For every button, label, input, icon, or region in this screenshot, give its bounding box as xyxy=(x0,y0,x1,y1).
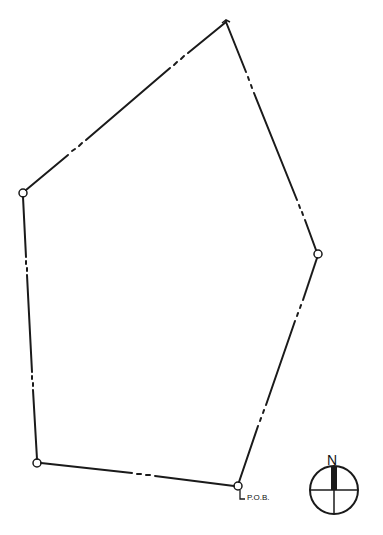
boundary-edge-e-a xyxy=(26,22,226,190)
vertex-marker-b xyxy=(314,250,322,258)
boundary-edge-b-c xyxy=(239,258,317,482)
boundary-edge-a-b xyxy=(226,22,316,250)
vertex-marker-c-pob xyxy=(234,482,242,490)
pob-annotation: P.O.B. xyxy=(240,490,270,502)
vertex-marker-e xyxy=(19,189,27,197)
pob-leader-line xyxy=(240,490,245,499)
boundary-lines xyxy=(23,22,317,486)
vertex-marker-d xyxy=(33,459,41,467)
north-arrow-icon: N xyxy=(310,452,358,514)
boundary-edge-d-e xyxy=(23,197,37,459)
north-arrow-needle xyxy=(331,466,337,490)
vertex-markers xyxy=(19,20,322,490)
plat-drawing: P.O.B. N xyxy=(0,0,383,535)
pob-label: P.O.B. xyxy=(247,493,270,502)
boundary-edge-c-d xyxy=(41,463,234,486)
